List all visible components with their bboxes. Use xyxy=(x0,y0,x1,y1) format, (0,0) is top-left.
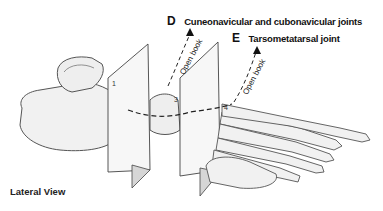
plane-number-1: 1 xyxy=(112,80,116,87)
view-label: Lateral View xyxy=(10,186,65,197)
cut-plane-1 xyxy=(108,44,150,172)
annotation-d: D Cuneonavicular and cubonavicular joint… xyxy=(167,11,362,29)
annotation-e: E Tarsometatarsal joint xyxy=(232,28,340,46)
metatarsals xyxy=(206,104,370,188)
annotation-letter: E xyxy=(232,31,240,45)
annotation-text: Tarsometatarsal joint xyxy=(248,33,339,44)
foot-illustration: 1 3 4 D Cuneonavicular and cubonavicular… xyxy=(0,0,383,211)
annotation-text: Cuneonavicular and cubonavicular joints xyxy=(184,16,362,27)
annotation-letter: D xyxy=(167,14,176,28)
calcaneus-bone xyxy=(20,83,118,151)
plane-number-3: 3 xyxy=(174,96,178,103)
plane-number-4: 4 xyxy=(224,104,228,111)
